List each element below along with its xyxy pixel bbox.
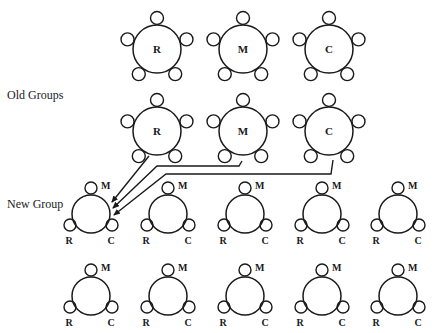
arrow-from-C <box>114 160 333 215</box>
group-label: R <box>153 125 162 137</box>
member-circle <box>337 219 349 231</box>
member-circle <box>218 219 230 231</box>
new-group: MRC <box>141 180 195 246</box>
group-circle <box>226 195 264 233</box>
group-circle <box>379 277 417 315</box>
group-label: C <box>325 43 333 55</box>
member-circle <box>64 219 76 231</box>
member-circle <box>218 301 230 313</box>
member-circle <box>180 115 193 128</box>
member-circle <box>295 219 307 231</box>
new-group: MRC <box>141 262 195 328</box>
member-label: M <box>178 180 188 191</box>
top-row-groups: RMC <box>121 12 365 81</box>
member-label: C <box>184 235 191 246</box>
member-circle <box>352 115 365 128</box>
group-circle <box>149 195 187 233</box>
member-circle <box>413 301 425 313</box>
member-label: R <box>372 235 380 246</box>
member-label: R <box>296 317 304 328</box>
member-circle <box>85 264 97 276</box>
member-circle <box>295 301 307 313</box>
member-circle <box>106 301 118 313</box>
new-group: MRC <box>371 262 425 328</box>
group-circle <box>149 277 187 315</box>
member-label: M <box>255 262 265 273</box>
member-circle <box>207 115 220 128</box>
top-group-M: M <box>207 12 279 81</box>
member-circle <box>85 182 97 194</box>
group-label: M <box>238 43 249 55</box>
member-circle <box>207 33 220 46</box>
member-label: C <box>338 235 345 246</box>
member-circle <box>141 301 153 313</box>
group-regrouping-diagram: RMC RMC MRCMRCMRCMRCMRCMRCMRCMRCMRCMRC <box>0 0 435 333</box>
member-label: C <box>107 317 114 328</box>
member-label: M <box>332 180 342 191</box>
member-circle <box>162 182 174 194</box>
member-label: C <box>107 235 114 246</box>
top-group-R: R <box>121 12 193 81</box>
member-label: M <box>178 262 188 273</box>
member-circle <box>371 301 383 313</box>
member-circle <box>183 219 195 231</box>
new-group: MRC <box>295 262 349 328</box>
group-label: M <box>238 125 249 137</box>
member-circle <box>352 33 365 46</box>
new-group: MRC <box>218 262 272 328</box>
group-circle <box>72 195 110 233</box>
member-label: R <box>372 317 380 328</box>
member-label: C <box>414 317 421 328</box>
member-label: R <box>65 317 73 328</box>
new-group: MRC <box>218 180 272 246</box>
group-circle <box>303 195 341 233</box>
new-group: MRC <box>64 262 118 328</box>
member-circle <box>121 33 134 46</box>
member-circle <box>162 264 174 276</box>
group-circle <box>303 277 341 315</box>
member-circle <box>260 219 272 231</box>
old-group-R: R <box>121 94 193 163</box>
member-label: M <box>408 180 418 191</box>
member-circle <box>316 182 328 194</box>
group-circle <box>226 277 264 315</box>
member-circle <box>180 33 193 46</box>
member-circle <box>316 264 328 276</box>
member-circle <box>121 115 134 128</box>
member-label: R <box>296 235 304 246</box>
member-label: C <box>414 235 421 246</box>
member-circle <box>106 219 118 231</box>
member-circle <box>413 219 425 231</box>
member-label: C <box>261 235 268 246</box>
new-group: MRC <box>295 180 349 246</box>
old-groups: RMC <box>121 94 365 163</box>
member-circle <box>323 94 336 107</box>
member-label: R <box>142 235 150 246</box>
top-group-C: C <box>293 12 365 81</box>
member-label: R <box>219 317 227 328</box>
member-label: M <box>101 180 111 191</box>
member-circle <box>293 33 306 46</box>
member-circle <box>237 94 250 107</box>
group-label: C <box>325 125 333 137</box>
member-circle <box>183 301 195 313</box>
member-label: M <box>101 262 111 273</box>
old-group-M: M <box>207 94 279 163</box>
arrows <box>112 156 333 215</box>
member-circle <box>239 182 251 194</box>
member-circle <box>293 115 306 128</box>
member-label: C <box>184 317 191 328</box>
member-circle <box>392 182 404 194</box>
member-circle <box>64 301 76 313</box>
new-group: MRC <box>64 180 118 246</box>
member-circle <box>239 264 251 276</box>
member-label: C <box>338 317 345 328</box>
member-circle <box>392 264 404 276</box>
member-circle <box>323 12 336 25</box>
group-label: R <box>153 43 162 55</box>
member-circle <box>151 12 164 25</box>
member-label: R <box>142 317 150 328</box>
member-label: M <box>255 180 265 191</box>
member-circle <box>260 301 272 313</box>
member-label: M <box>408 262 418 273</box>
